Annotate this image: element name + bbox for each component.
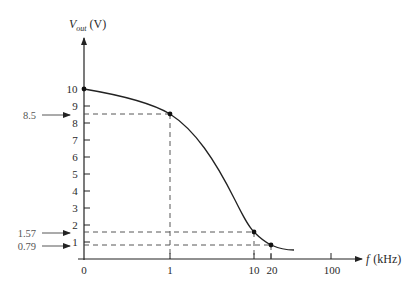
svg-text:7: 7 — [72, 134, 78, 146]
x-ticks — [170, 253, 331, 259]
svg-text:100: 100 — [324, 264, 341, 276]
data-points — [82, 87, 274, 248]
annotation-arrows — [42, 115, 70, 246]
svg-text:0: 0 — [81, 264, 87, 276]
svg-text:1: 1 — [72, 236, 78, 248]
svg-text:6: 6 — [72, 151, 78, 163]
svg-text:10: 10 — [67, 83, 79, 95]
svg-text:2: 2 — [72, 219, 78, 231]
svg-text:5: 5 — [72, 168, 78, 180]
svg-text:3: 3 — [72, 202, 78, 214]
svg-text:4: 4 — [72, 185, 78, 197]
x-tick-labels: 0 1 10 20 100 — [81, 264, 341, 276]
y-tick-labels: 1 2 3 4 5 6 7 8 9 10 — [67, 83, 79, 248]
svg-text:1: 1 — [167, 264, 173, 276]
svg-text:8.5: 8.5 — [23, 110, 36, 121]
y-ticks — [84, 106, 90, 242]
dashed-guides — [84, 114, 271, 259]
response-curve — [84, 89, 294, 250]
point-10khz — [252, 230, 257, 235]
svg-text:20: 20 — [267, 264, 279, 276]
frequency-response-diagram: 1 2 3 4 5 6 7 8 9 10 0 1 10 20 100 Vout(… — [0, 0, 413, 285]
svg-text:1.57: 1.57 — [18, 228, 36, 239]
annotation-labels: 8.5 1.57 0.79 — [18, 110, 36, 252]
point-20khz — [269, 243, 274, 248]
svg-text:8: 8 — [72, 117, 78, 129]
svg-text:10: 10 — [249, 264, 261, 276]
point-0khz — [82, 87, 87, 92]
point-1khz — [168, 112, 173, 117]
y-axis-title: Vout(V) — [69, 17, 106, 33]
svg-text:9: 9 — [72, 100, 78, 112]
x-axis-title: f(kHz) — [366, 252, 401, 266]
svg-text:0.79: 0.79 — [18, 241, 36, 252]
